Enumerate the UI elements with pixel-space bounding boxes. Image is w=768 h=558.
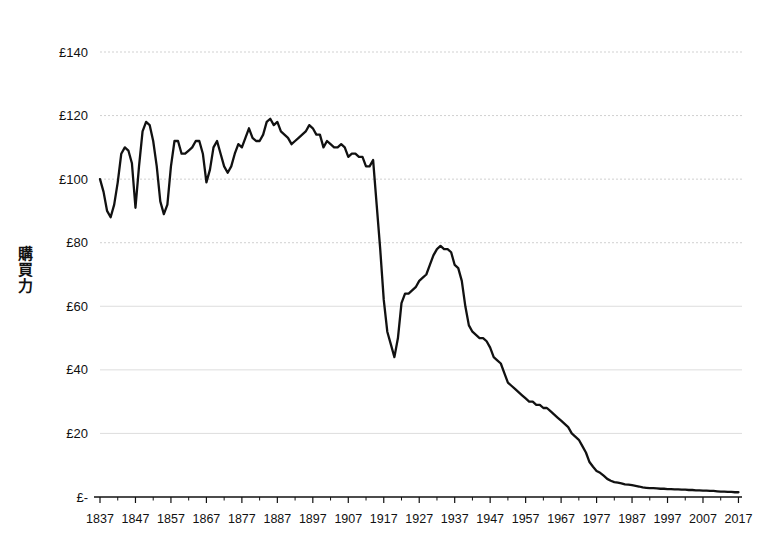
x-axis-tick-label: 1837 xyxy=(86,512,114,526)
x-axis-tick-label: 1857 xyxy=(157,512,185,526)
y-axis-tick-label: £20 xyxy=(66,426,88,441)
x-axis-tick-label: 2007 xyxy=(689,512,717,526)
x-axis-tick-label: 1867 xyxy=(193,512,221,526)
y-axis-tick-label: £40 xyxy=(66,362,88,377)
x-axis-tick-label: 2017 xyxy=(725,512,753,526)
y-axis-tick-label: £120 xyxy=(59,108,88,123)
x-axis-tick-label: 1847 xyxy=(122,512,150,526)
x-axis-tick-label: 1897 xyxy=(299,512,327,526)
x-axis-tick-label: 1977 xyxy=(583,512,611,526)
y-axis-tick-label: £100 xyxy=(59,172,88,187)
series-path-purchasing-power xyxy=(100,119,738,492)
x-axis-tick-label: 1947 xyxy=(476,512,504,526)
x-axis-tick-label: 1997 xyxy=(654,512,682,526)
x-axis-tick-labels: 1837184718571867187718871897190719171927… xyxy=(86,512,752,526)
x-axis-tick-label: 1907 xyxy=(334,512,362,526)
y-axis-tick-label: £80 xyxy=(66,235,88,250)
y-axis-tick-labels: £-£20£40£60£80£100£120£140 xyxy=(59,45,88,505)
x-axis-tick-label: 1927 xyxy=(405,512,433,526)
line-chart-plot: £-£20£40£60£80£100£120£140 1837184718571… xyxy=(0,0,768,558)
gridlines-group xyxy=(100,52,742,433)
x-axis-ticks xyxy=(100,497,738,503)
x-axis-tick-label: 1887 xyxy=(263,512,291,526)
x-axis-tick-label: 1917 xyxy=(370,512,398,526)
x-axis-tick-label: 1937 xyxy=(441,512,469,526)
y-axis-tick-label: £140 xyxy=(59,45,88,60)
x-axis-tick-label: 1987 xyxy=(618,512,646,526)
data-series-line xyxy=(100,119,738,492)
x-axis-tick-label: 1877 xyxy=(228,512,256,526)
x-axis-tick-label: 1957 xyxy=(512,512,540,526)
x-axis-tick-label: 1967 xyxy=(547,512,575,526)
y-axis-tick-label: £- xyxy=(76,490,88,505)
chart-container: 購 買 力 £-£20£40£60£80£100£120£140 1837184… xyxy=(0,0,768,558)
y-axis-tick-label: £60 xyxy=(66,299,88,314)
